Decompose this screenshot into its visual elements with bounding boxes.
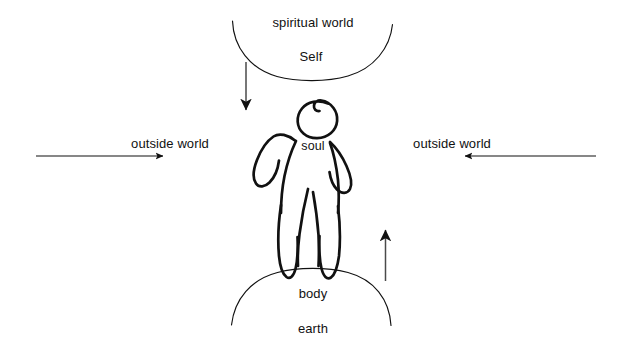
figure-torso-left [281, 141, 296, 213]
figure-right-leg-inner [313, 192, 319, 266]
label-body: body [299, 286, 328, 301]
figure-left-leg-inner [298, 189, 308, 266]
figure-right-leg-outer [319, 206, 340, 278]
label-soul: soul [301, 139, 324, 153]
label-earth: earth [298, 321, 328, 336]
label-outside-world-right: outside world [413, 136, 491, 151]
label-outside-world-left: outside world [131, 136, 209, 151]
label-self: Self [300, 49, 323, 64]
human-figure [254, 100, 351, 278]
diagram-canvas: spiritual world Self soul body earth out… [0, 0, 620, 352]
label-spiritual-world: spiritual world [273, 15, 354, 30]
figure-head [298, 100, 338, 138]
figure-left-leg-outer [278, 205, 297, 278]
